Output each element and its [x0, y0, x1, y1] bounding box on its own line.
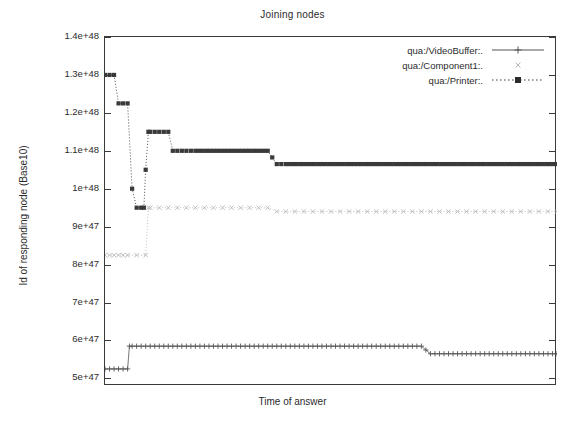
legend-label-printer: qua:/Printer:. [429, 75, 483, 86]
y-tick-label: 8e+47 [72, 258, 99, 269]
y-tick-label: 7e+47 [72, 296, 99, 307]
y-tick-label: 5e+47 [72, 371, 99, 382]
y-tick-label: 1.1e+48 [64, 144, 99, 155]
series-2 [105, 73, 557, 210]
x-axis-label: Time of answer [0, 396, 585, 407]
series-1 [105, 206, 557, 258]
series-0 [105, 344, 557, 372]
y-tick-label: 1.4e+48 [64, 30, 99, 41]
legend-label-component1: qua:/Component1:. [402, 60, 483, 71]
legend-key-videobuffer [490, 44, 546, 56]
legend-item-component1: qua:/Component1:. [402, 59, 546, 71]
y-tick-label: 9e+47 [72, 220, 99, 231]
legend-label-videobuffer: qua:/VideoBuffer:. [407, 45, 483, 56]
y-tick-label: 1.2e+48 [64, 106, 99, 117]
plot-area: 5e+476e+477e+478e+479e+471e+481.1e+481.2… [104, 36, 556, 385]
y-tick-label: 6e+47 [72, 333, 99, 344]
legend: qua:/VideoBuffer:. qua:/Component1:. [392, 38, 554, 92]
chart-root: Joining nodes Id of responding node (Bas… [0, 0, 585, 428]
legend-key-printer [490, 74, 546, 86]
legend-key-component1 [490, 59, 546, 71]
legend-item-videobuffer: qua:/VideoBuffer:. [407, 44, 546, 56]
y-axis-label: Id of responding node (Base10) [18, 131, 29, 301]
legend-item-printer: qua:/Printer:. [429, 74, 546, 86]
chart-title: Joining nodes [0, 9, 585, 20]
y-tick-label: 1.3e+48 [64, 68, 99, 79]
y-tick-label: 1e+48 [72, 182, 99, 193]
